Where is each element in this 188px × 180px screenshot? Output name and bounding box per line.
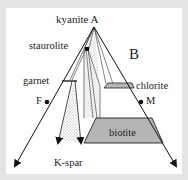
staurolite-point: [85, 47, 89, 51]
afm-diagram: kyanite A staurolite B garnet chlorite F…: [0, 0, 188, 180]
label-f: F: [36, 95, 42, 106]
label-kspar: K-spar: [54, 157, 83, 168]
label-staurolite: staurolite: [29, 40, 68, 51]
label-biotite: biotite: [109, 127, 136, 138]
f-point: [45, 100, 50, 105]
label-chlorite: chlorite: [136, 80, 168, 91]
label-m: M: [146, 95, 156, 106]
label-garnet: garnet: [23, 75, 49, 86]
m-point: [139, 100, 144, 105]
label-b: B: [129, 46, 139, 62]
label-kyanite-a: kyanite A: [56, 13, 99, 25]
